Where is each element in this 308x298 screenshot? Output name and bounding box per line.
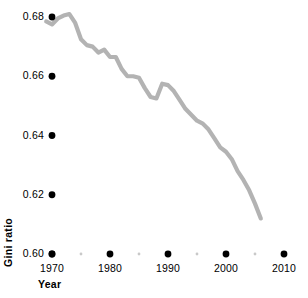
gini-ratio-line — [46, 14, 261, 218]
y-tick-label: 0.64 — [0, 129, 44, 141]
x-tick-marker — [223, 251, 230, 258]
x-tick-label: 1970 — [28, 262, 76, 274]
gini-ratio-line-chart: 0.600.620.640.660.68 1970198019902000201… — [0, 0, 308, 298]
x-tick-marker — [281, 251, 288, 258]
x-axis-title: Year — [38, 278, 61, 290]
y-tick-label: 0.66 — [0, 69, 44, 81]
y-axis-major-tick-markers — [49, 14, 56, 258]
x-minor-tick-marker — [254, 253, 257, 256]
x-minor-tick-marker — [80, 253, 83, 256]
data-line-group — [46, 14, 261, 218]
x-tick-label: 1980 — [86, 262, 134, 274]
y-tick-label: 0.68 — [0, 10, 44, 22]
x-minor-tick-marker — [196, 253, 199, 256]
x-tick-marker — [165, 251, 172, 258]
x-tick-label: 2010 — [260, 262, 308, 274]
chart-plot-area — [0, 0, 308, 298]
x-minor-tick-marker — [138, 253, 141, 256]
y-tick-marker — [49, 73, 56, 80]
y-tick-marker — [49, 14, 56, 21]
x-tick-label: 1990 — [144, 262, 192, 274]
y-axis-title: Gini ratio — [2, 218, 14, 267]
x-tick-label: 2000 — [202, 262, 250, 274]
y-tick-marker — [49, 251, 56, 258]
y-tick-marker — [49, 191, 56, 198]
y-tick-label: 0.62 — [0, 188, 44, 200]
y-tick-marker — [49, 132, 56, 139]
x-tick-marker — [107, 251, 114, 258]
x-axis-major-tick-markers — [49, 251, 288, 258]
